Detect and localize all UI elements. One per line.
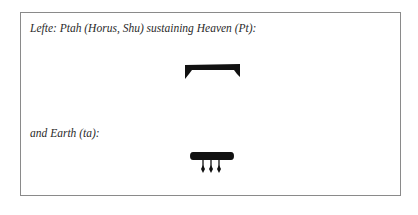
earth-hieroglyph-icon (190, 150, 234, 176)
figure-frame: Lefte: Ptah (Horus, Shu) sustaining Heav… (20, 12, 401, 196)
heaven-hieroglyph-icon (184, 63, 241, 83)
caption-earth: and Earth (ta): (30, 127, 100, 139)
caption-heaven: Lefte: Ptah (Horus, Shu) sustaining Heav… (30, 22, 256, 34)
